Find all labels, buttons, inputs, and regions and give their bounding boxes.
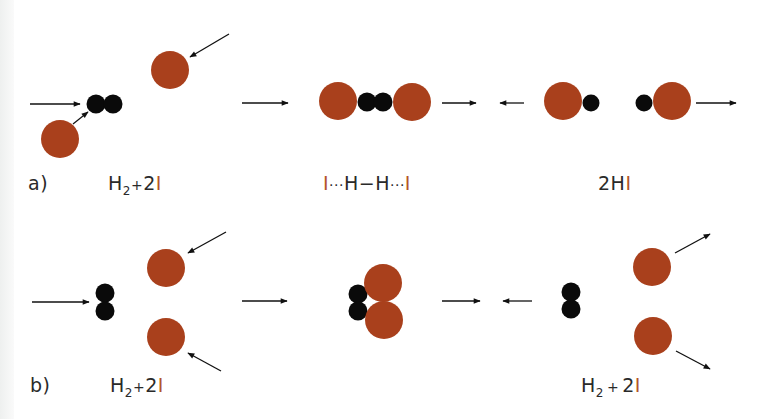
row-a-label: a) — [28, 172, 48, 194]
row-b-reactants-formula: H2+2I — [110, 374, 164, 396]
iodine-atom — [544, 82, 582, 120]
arrow-icon — [190, 34, 229, 57]
iodine-atom — [633, 248, 671, 286]
iodine-atom — [365, 301, 403, 339]
arrow-icon — [188, 232, 226, 253]
iodine-atom — [147, 318, 185, 356]
row-b-products — [562, 248, 673, 355]
arrow-icon — [73, 112, 88, 124]
row-b-label: b) — [30, 374, 50, 396]
hydrogen-atom — [636, 95, 653, 112]
row-a-products-formula: 2HI — [598, 172, 632, 194]
arrow-icon — [188, 353, 221, 371]
row-a-transition-state — [319, 82, 431, 121]
iodine-atom — [364, 264, 402, 302]
hydrogen-atom — [104, 95, 123, 114]
row-b-transition-state — [349, 264, 404, 339]
iodine-atom — [41, 120, 79, 158]
hydrogen-atom — [87, 95, 106, 114]
row-b-products-formula: H2+2I — [581, 374, 641, 396]
hydrogen-atom — [96, 302, 115, 321]
iodine-atom — [151, 51, 189, 89]
hydrogen-atom — [374, 93, 393, 112]
hydrogen-atom — [562, 300, 581, 319]
iodine-atom — [634, 317, 672, 355]
iodine-atom — [319, 82, 357, 120]
iodine-atom — [393, 83, 431, 121]
row-a-transition-formula: I···H−H···I — [323, 172, 411, 194]
hydrogen-atom — [583, 95, 600, 112]
arrow-icon — [676, 351, 710, 369]
row-a-reactants-formula: H2+2I — [108, 172, 162, 194]
row-b-reactants — [96, 249, 186, 356]
iodine-atom — [147, 249, 185, 287]
iodine-atom — [653, 82, 691, 120]
arrow-icon — [675, 234, 710, 253]
hydrogen-atom — [96, 284, 115, 303]
hydrogen-atom — [349, 302, 368, 321]
row-a-products — [544, 82, 691, 120]
hydrogen-atom — [562, 283, 581, 302]
reaction-diagram — [0, 0, 761, 419]
